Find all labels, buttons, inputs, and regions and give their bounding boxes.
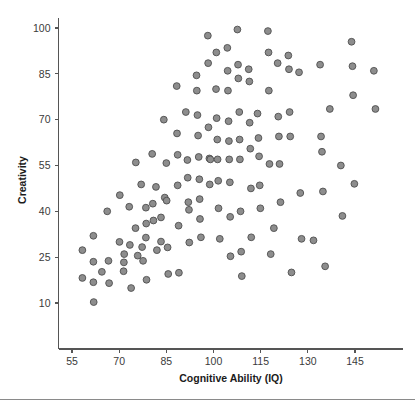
data-point [226, 156, 233, 163]
x-axis-title: Cognitive Ability (IQ) [179, 372, 282, 384]
data-point [132, 225, 139, 232]
data-point [337, 162, 344, 169]
data-point [79, 275, 86, 282]
x-tick-label: 130 [299, 355, 317, 367]
data-point [205, 60, 212, 67]
data-point [139, 244, 146, 251]
data-point [120, 259, 127, 266]
data-point [143, 220, 150, 227]
data-point [245, 66, 252, 73]
data-point [163, 197, 170, 204]
data-point [236, 136, 243, 143]
data-point [153, 183, 160, 190]
data-point [214, 136, 221, 143]
data-point [143, 276, 150, 283]
data-point [275, 113, 282, 120]
data-point [207, 156, 214, 163]
data-point [227, 213, 234, 220]
data-point [158, 238, 165, 245]
data-point [160, 116, 167, 123]
data-point [276, 133, 283, 140]
data-points-group [79, 26, 379, 305]
x-tick-label: 55 [66, 355, 78, 367]
data-point [204, 32, 211, 39]
data-point [185, 199, 192, 206]
chart-canvas: 102540557085100 557085100115130145 Cogni… [0, 0, 415, 409]
data-point [90, 279, 97, 286]
data-point [235, 61, 242, 68]
data-point [215, 205, 222, 212]
data-point [214, 156, 221, 163]
data-point [257, 205, 264, 212]
data-point [174, 151, 181, 158]
data-point [267, 251, 274, 258]
data-point [154, 247, 161, 254]
data-point [225, 118, 232, 125]
data-point [226, 138, 233, 145]
data-point [265, 87, 272, 94]
data-point [277, 199, 284, 206]
data-point [165, 271, 172, 278]
data-point [195, 154, 202, 161]
data-point [173, 83, 180, 90]
y-tick-label: 40 [39, 205, 51, 217]
data-point [224, 67, 231, 74]
data-point [128, 285, 135, 292]
data-point [248, 185, 255, 192]
data-point [138, 181, 145, 188]
data-point [216, 235, 223, 242]
data-point [247, 145, 254, 152]
x-axis-ticks: 557085100115130145 [66, 349, 364, 367]
data-point [310, 237, 317, 244]
data-point [126, 242, 133, 249]
x-tick-label: 70 [113, 355, 125, 367]
data-point [320, 188, 327, 195]
data-point [176, 269, 183, 276]
footer-divider [0, 399, 415, 400]
data-point [286, 66, 293, 73]
data-point [150, 217, 157, 224]
data-point [349, 63, 356, 70]
data-point [322, 263, 329, 270]
data-point [270, 225, 277, 232]
data-point [164, 244, 171, 251]
data-point [276, 161, 283, 168]
data-point [182, 109, 189, 116]
data-point [213, 115, 220, 122]
data-point [296, 69, 303, 76]
data-point [215, 177, 222, 184]
y-axis-ticks: 102540557085100 [33, 22, 59, 309]
data-point [237, 208, 244, 215]
data-point [265, 49, 272, 56]
data-point [79, 247, 86, 254]
data-point [186, 239, 193, 246]
y-tick-label: 25 [39, 251, 51, 263]
data-point [105, 257, 112, 264]
data-point [350, 92, 357, 99]
x-tick-label: 100 [205, 355, 223, 367]
y-tick-label: 85 [39, 68, 51, 80]
data-point [163, 160, 170, 167]
data-point [254, 110, 261, 117]
data-point [149, 200, 156, 207]
data-point [238, 273, 245, 280]
data-point [174, 182, 181, 189]
data-point [186, 206, 193, 213]
data-point [238, 248, 245, 255]
data-point [193, 72, 200, 79]
x-tick-label: 145 [346, 355, 364, 367]
data-point [255, 135, 262, 142]
data-point [326, 106, 333, 113]
data-point [197, 216, 204, 223]
data-point [246, 119, 253, 126]
y-tick-label: 100 [33, 22, 51, 34]
data-point [120, 268, 127, 275]
data-point [370, 67, 377, 74]
data-point [90, 258, 97, 265]
x-tick-label: 115 [252, 355, 269, 367]
data-point [196, 196, 203, 203]
data-point [98, 268, 105, 275]
data-point [256, 153, 263, 160]
data-point [194, 112, 201, 119]
data-point [298, 235, 305, 242]
